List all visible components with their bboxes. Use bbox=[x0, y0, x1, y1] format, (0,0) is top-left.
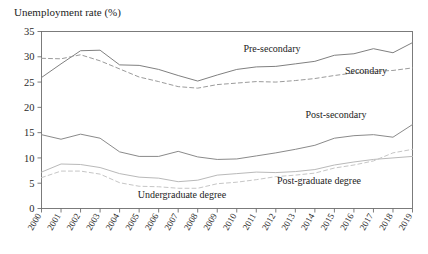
y-tick-label: 30 bbox=[24, 51, 35, 62]
line-chart-plot: 0510152025303520002001200220032004200520… bbox=[0, 0, 428, 254]
series-annotation-pre-secondary: Pre-secondary bbox=[243, 43, 300, 54]
y-tick-label: 20 bbox=[24, 102, 35, 113]
x-tick-label: 2011 bbox=[241, 212, 258, 232]
y-tick-label: 35 bbox=[24, 26, 35, 37]
y-tick-label: 10 bbox=[24, 153, 35, 164]
x-tick-label: 2014 bbox=[299, 211, 317, 232]
series-annotation-post-graduate-degree: Post-graduate degree bbox=[277, 175, 362, 186]
x-tick-label: 2017 bbox=[358, 211, 376, 232]
x-tick-label: 2002 bbox=[65, 212, 83, 233]
x-tick-label: 2000 bbox=[26, 211, 44, 232]
x-tick-label: 2007 bbox=[162, 211, 180, 232]
x-tick-label: 2008 bbox=[182, 211, 200, 232]
x-tick-label: 2013 bbox=[279, 211, 297, 232]
series-line-post-secondary bbox=[42, 125, 413, 160]
x-tick-label: 2003 bbox=[84, 211, 102, 232]
x-tick-label: 2009 bbox=[201, 211, 219, 232]
y-tick-label: 15 bbox=[24, 127, 35, 138]
x-tick-label: 2016 bbox=[338, 211, 356, 232]
series-annotation-undergraduate-degree: Undergraduate degree bbox=[138, 189, 227, 200]
x-tick-label: 2004 bbox=[104, 211, 122, 232]
x-tick-label: 2006 bbox=[143, 211, 161, 232]
x-tick-label: 2012 bbox=[260, 212, 278, 233]
x-tick-label: 2015 bbox=[318, 211, 336, 232]
x-tick-label: 2001 bbox=[45, 212, 63, 233]
x-tick-label: 2019 bbox=[397, 211, 415, 232]
y-tick-label: 25 bbox=[24, 77, 35, 88]
series-annotation-post-secondary: Post-secondary bbox=[305, 109, 366, 120]
x-tick-label: 2010 bbox=[221, 211, 239, 232]
x-tick-label: 2005 bbox=[123, 211, 141, 232]
x-tick-label: 2018 bbox=[377, 211, 395, 232]
series-annotation-secondary: Secondary bbox=[345, 65, 387, 76]
y-tick-label: 5 bbox=[29, 178, 34, 189]
chart-figure: Unemployment rate (%) 051015202530352000… bbox=[0, 0, 428, 254]
